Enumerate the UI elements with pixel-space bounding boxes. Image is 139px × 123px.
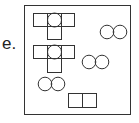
t-shape-1 — [34, 13, 75, 40]
rect-pair — [69, 94, 97, 108]
circle-pair-2 — [82, 55, 109, 69]
frame — [25, 6, 131, 115]
circle-pair-3 — [38, 77, 65, 91]
figure-canvas — [0, 0, 139, 123]
circle-pair-1 — [100, 25, 127, 39]
t-shape-2 — [34, 45, 75, 73]
